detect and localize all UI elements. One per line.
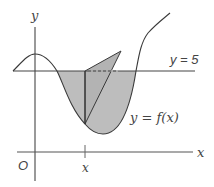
line-label-y5: y = 5 [169, 52, 199, 67]
origin-label: O [18, 158, 28, 173]
tick-label-x: x [82, 161, 89, 175]
y-axis-label: y [30, 8, 39, 23]
x-axis-label: x [197, 145, 205, 160]
curve-label: y = f(x) [129, 110, 179, 125]
diagram-figure: y x O x y = 5 y = f(x) [0, 0, 214, 187]
